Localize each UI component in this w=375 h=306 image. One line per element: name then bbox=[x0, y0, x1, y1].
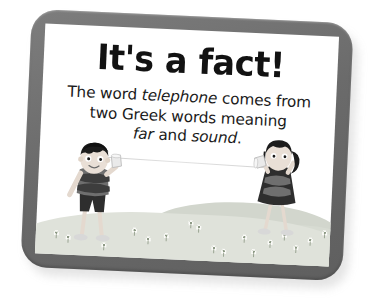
flower-icon bbox=[293, 245, 298, 250]
card-frame: It's a fact! The word telephone comes fr… bbox=[20, 9, 353, 281]
body-run: The word bbox=[67, 83, 142, 104]
emphasis-word: far bbox=[133, 125, 154, 144]
page-canvas: It's a fact! The word telephone comes fr… bbox=[0, 0, 375, 306]
flower-icon bbox=[221, 249, 226, 254]
flower-icon bbox=[211, 245, 216, 250]
card-page: It's a fact! The word telephone comes fr… bbox=[35, 23, 339, 266]
flower-icon bbox=[164, 233, 169, 238]
boy-with-can bbox=[57, 138, 132, 249]
girl-with-can bbox=[240, 137, 315, 244]
flower-icon bbox=[132, 228, 137, 233]
emphasis-word: telephone bbox=[141, 86, 217, 107]
body-run: comes from bbox=[217, 89, 311, 111]
flower-icon bbox=[251, 249, 256, 254]
fact-card: It's a fact! The word telephone comes fr… bbox=[20, 9, 353, 281]
flower-icon bbox=[188, 220, 193, 225]
page-title: It's a fact! bbox=[49, 38, 333, 86]
illustration-scene bbox=[35, 141, 334, 266]
body-run: . bbox=[237, 129, 243, 147]
flower-icon bbox=[196, 225, 201, 230]
flower-icon bbox=[322, 230, 327, 235]
emphasis-word: sound bbox=[191, 127, 237, 147]
flower-icon bbox=[146, 236, 151, 241]
body-run: and bbox=[153, 125, 192, 145]
